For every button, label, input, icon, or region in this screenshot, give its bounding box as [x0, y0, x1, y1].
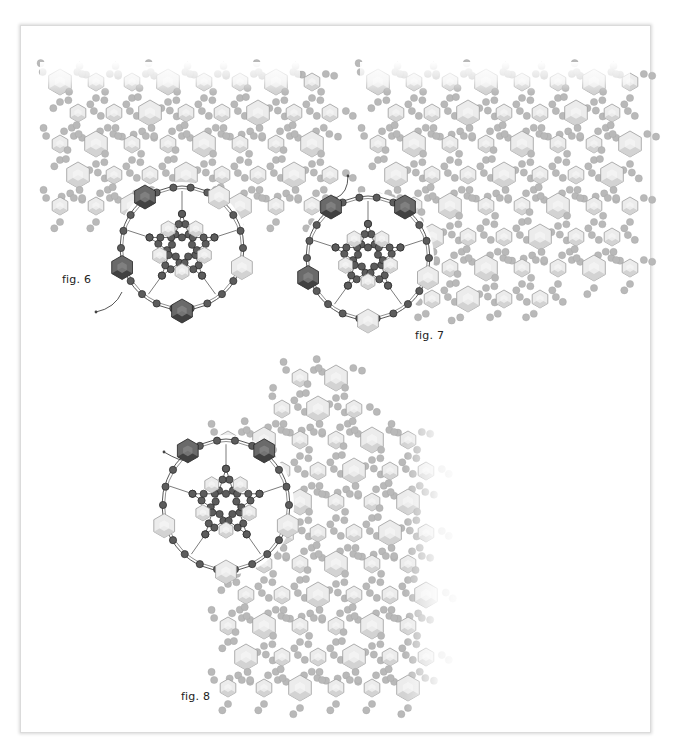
seed-bead [123, 101, 130, 108]
seed-bead [626, 160, 633, 167]
crystal-bead [161, 221, 175, 237]
crystal-bead [232, 135, 248, 153]
crystal-bead [379, 520, 402, 546]
seed-bead [391, 614, 398, 621]
crystal-bead [496, 290, 512, 308]
seed-bead [594, 128, 601, 135]
seed-bead [444, 293, 451, 300]
seed-bead-dark [117, 244, 124, 251]
seed-bead [133, 174, 140, 181]
seed-bead [294, 651, 301, 658]
seed-bead-dark [202, 531, 209, 538]
seed-bead-dark [198, 497, 205, 504]
seed-bead [220, 62, 227, 69]
seed-bead [613, 70, 620, 77]
seed-bead-dark [146, 234, 153, 241]
seed-bead [357, 68, 364, 75]
seed-bead [549, 287, 556, 294]
seed-bead [90, 107, 97, 114]
seed-bead [181, 122, 188, 129]
seed-bead [358, 367, 365, 374]
seed-bead [168, 128, 175, 135]
seed-bead [304, 381, 311, 388]
seed-bead [331, 72, 338, 79]
seed-bead [327, 459, 334, 466]
seed-bead [247, 676, 254, 683]
seed-bead [385, 666, 392, 673]
seed-bead-dark [229, 510, 236, 517]
seed-bead [477, 225, 484, 232]
crystal-bead [310, 462, 326, 480]
seed-bead [60, 128, 67, 135]
seed-bead [635, 175, 642, 182]
seed-bead [451, 174, 458, 181]
crystal-bead [415, 582, 438, 608]
seed-bead [402, 651, 409, 658]
crystal-bead [274, 586, 290, 604]
seed-bead [200, 160, 207, 167]
crystal-bead [361, 274, 375, 290]
seed-bead [322, 70, 329, 77]
seed-bead [380, 606, 387, 613]
seed-bead [320, 186, 327, 193]
seed-bead [528, 150, 535, 157]
crystal-bead [274, 648, 290, 666]
crystal-bead [196, 505, 210, 521]
seed-bead [358, 124, 365, 131]
crystal-bead [601, 162, 624, 188]
seed-bead-dark [397, 244, 404, 251]
crystal-bead [67, 162, 90, 188]
seed-bead-dark [237, 227, 244, 234]
seed-bead-dark [303, 254, 310, 261]
seed-bead [377, 641, 384, 648]
seed-bead [198, 107, 205, 114]
seed-bead [102, 150, 109, 157]
seed-bead-dark [233, 498, 240, 505]
seed-bead [556, 231, 563, 238]
seed-bead [414, 508, 421, 515]
seed-bead [458, 186, 465, 193]
seed-bead [253, 60, 260, 67]
seed-bead [422, 488, 429, 495]
beading-diagram-canvas [0, 0, 673, 753]
seed-bead [626, 94, 633, 101]
seed-bead [391, 428, 398, 435]
seed-bead [173, 97, 180, 104]
seed-bead [283, 366, 290, 373]
seed-bead [308, 482, 315, 489]
crystal-bead [586, 197, 602, 215]
seed-bead [269, 393, 276, 400]
crystal-bead [347, 231, 361, 247]
seed-bead [541, 132, 548, 139]
seed-bead [338, 451, 345, 458]
seed-bead [541, 256, 548, 263]
seed-bead-dark [157, 234, 164, 241]
seed-bead [259, 194, 266, 201]
crystal-bead [346, 524, 362, 542]
seed-bead-dark [368, 231, 375, 238]
seed-bead [184, 62, 191, 69]
seed-bead [456, 212, 463, 219]
crystal-bead [568, 228, 584, 246]
seed-bead [355, 552, 362, 559]
seed-bead [76, 62, 83, 69]
seed-bead [276, 128, 283, 135]
seed-bead [455, 221, 462, 228]
seed-bead [272, 606, 279, 613]
seed-bead-dark [373, 194, 380, 201]
seed-bead-dark [371, 263, 378, 270]
seed-bead [248, 186, 255, 193]
seed-bead [280, 358, 287, 365]
seed-bead [305, 455, 312, 462]
seed-bead [315, 550, 322, 557]
seed-bead [418, 209, 425, 216]
seed-bead [563, 221, 570, 228]
seed-bead [438, 465, 445, 472]
seed-bead [326, 130, 333, 137]
crystal-bead [568, 166, 584, 184]
seed-bead [408, 548, 415, 555]
seed-bead-dark [234, 524, 241, 531]
seed-bead-dark [344, 282, 351, 289]
seed-bead [640, 256, 647, 263]
seed-bead [236, 156, 243, 163]
